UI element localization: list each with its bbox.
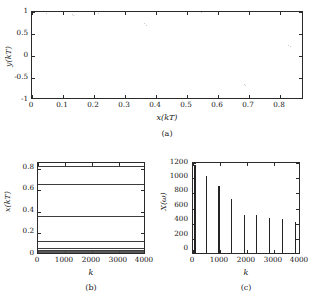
panel-a-ytick-r-1: [299, 78, 302, 79]
panel-c-ytick-label-1: 200: [158, 230, 188, 238]
panel-c-xtick-1: [220, 250, 221, 253]
panel-a-xtick-top-7: [249, 12, 250, 15]
data-point: [245, 85, 246, 86]
panel-c-xtick-label-1: 1000: [210, 256, 228, 264]
data-point: [73, 15, 74, 16]
panel-a-xtick-top-4: [156, 12, 157, 15]
panel-b-ytick-r-3: [141, 190, 144, 191]
data-point: [46, 13, 47, 14]
panel-c-ytick-label-2: 400: [158, 215, 188, 223]
panel-c-xlabel: k: [244, 268, 249, 277]
spectrum-peak: [282, 219, 283, 253]
panel-b-ytick-2: [38, 212, 41, 213]
panel-c-xtick-top-2: [247, 163, 248, 166]
panel-a-xtick-7: [249, 95, 250, 98]
data-point: [146, 25, 147, 26]
panel-c-ytick-r-6: [296, 163, 299, 164]
panel-b-caption: (b): [85, 283, 96, 292]
panel-a: y(kT) 1 0.5 0 -0.5 -1: [0, 0, 312, 152]
panel-a-caption: (a): [161, 129, 172, 138]
data-point: [290, 46, 291, 47]
panel-b-axes: [37, 162, 145, 254]
panel-c-caption: (c): [241, 283, 252, 292]
panel-a-ytick-label-2: 0: [10, 51, 28, 59]
panel-a-xtick-label-4: 0.4: [149, 101, 160, 109]
panel-b-ytick-r-1: [141, 233, 144, 234]
panel-c-xtick-label-4: 4000: [290, 256, 308, 264]
spectrum-peak: [244, 215, 245, 253]
panel-c-xtick-3: [274, 250, 275, 253]
panel-b-ytick-3: [38, 190, 41, 191]
panel-a-xtick-label-5: 0.5: [180, 101, 191, 109]
panel-c-ytick-r-3: [296, 209, 299, 210]
spectrum-peak: [269, 218, 270, 253]
panel-a-xtick-label-3: 0.3: [118, 101, 129, 109]
panel-a-xtick-label-7: 0.7: [242, 101, 253, 109]
panel-a-xtick-label-6: 0.6: [211, 101, 222, 109]
panel-a-xtick-label-0: 0: [29, 101, 34, 109]
data-point: [201, 12, 202, 13]
spectrum-peak: [256, 215, 257, 253]
panel-b-ytick-r-4: [141, 169, 144, 170]
panel-a-ytick-label-1: -0.5: [2, 73, 28, 81]
panel-b-ytick-4: [38, 169, 41, 170]
panel-a-xtick-4: [156, 95, 157, 98]
panel-c-ytick-r-4: [296, 193, 299, 194]
panel-a-ytick-3: [32, 34, 35, 35]
panel-c-ytick-r-1: [296, 239, 299, 240]
panel-a-xtick-8: [280, 95, 281, 98]
panel-b-ytick-label-1: 0.2: [8, 227, 34, 235]
panel-b-ytick-label-3: 0.6: [8, 184, 34, 192]
panel-c-xtick-label-3: 3000: [264, 256, 282, 264]
panel-c-xtick-top-3: [274, 163, 275, 166]
panel-a-xtick-0: [32, 95, 33, 98]
panel-a-ytick-r-2: [299, 56, 302, 57]
panel-c-axes: [192, 162, 300, 254]
panel-b-ytick-1: [38, 233, 41, 234]
panel-a-ytick-r-4: [299, 12, 302, 13]
figure-container: y(kT) 1 0.5 0 -0.5 -1: [0, 0, 312, 303]
panel-c-ytick-label-4: 800: [158, 186, 188, 194]
panel-b-xtick-label-1: 1000: [55, 256, 73, 264]
panel-a-ytick-label-0: -1: [8, 95, 28, 103]
panel-a-xtick-top-6: [218, 12, 219, 15]
panel-a-ytick-r-3: [299, 34, 302, 35]
series-level: [38, 241, 144, 242]
panel-a-xlabel: x(kT): [157, 113, 178, 122]
panel-c-ytick-label-5: 1000: [158, 172, 188, 180]
panel-a-axes: [31, 11, 303, 99]
panel-a-ytick-2: [32, 56, 35, 57]
series-level: [38, 248, 144, 249]
panel-a-xtick-top-3: [125, 12, 126, 15]
panel-a-xtick-top-2: [94, 12, 95, 15]
spectrum-peak: [231, 199, 232, 253]
panel-a-ytick-label-4: 1: [10, 7, 28, 15]
panel-c-xtick-label-0: 0: [190, 256, 195, 264]
panel-a-ytick-label-3: 0.5: [4, 29, 28, 37]
panel-a-xtick-label-1: 0.1: [56, 101, 67, 109]
series-level: [38, 216, 144, 217]
series-level: [38, 166, 144, 167]
panel-b-ytick-label-4: 0.8: [8, 163, 34, 171]
panel-a-xtick-top-1: [63, 12, 64, 15]
panel-c-ytick-label-0: 0: [158, 244, 188, 252]
data-point: [288, 45, 289, 46]
panel-a-xtick-top-5: [187, 12, 188, 15]
panel-c-xtick-2: [247, 250, 248, 253]
panel-b-xtick-label-3: 3000: [109, 256, 127, 264]
panel-c-ytick-r-5: [296, 178, 299, 179]
panel-c-xtick-top-1: [220, 163, 221, 166]
panel-c: X(ω) 1200 1000 800 600 400 200 0: [156, 155, 312, 303]
panel-a-ytick-4: [32, 12, 35, 13]
panel-b-xtick-label-4: 4000: [135, 256, 153, 264]
panel-b-xtick-label-0: 0: [35, 256, 40, 264]
panel-a-ytick-1: [32, 78, 35, 79]
panel-c-xtick-label-2: 2000: [237, 256, 255, 264]
panel-a-xtick-5: [187, 95, 188, 98]
data-point: [144, 23, 145, 24]
panel-c-ytick-6: [193, 163, 196, 164]
panel-c-ytick-label-6: 1200: [158, 158, 188, 166]
series-level: [38, 184, 144, 185]
panel-b-ytick-label-2: 0.4: [8, 206, 34, 214]
spectrum-peak: [194, 165, 196, 253]
